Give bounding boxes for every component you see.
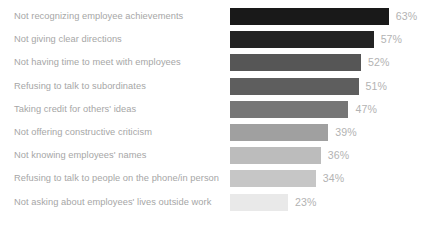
bar-track <box>230 147 321 164</box>
bar-category-label: Refusing to talk to people on the phone/… <box>14 167 219 190</box>
bar-row: Not knowing employees' names36% <box>0 144 436 167</box>
bar <box>230 78 359 95</box>
bar <box>230 194 288 211</box>
bar-category-label: Refusing to talk to subordinates <box>14 75 146 98</box>
bar-category-label: Not recognizing employee achievements <box>14 5 183 28</box>
bar-value-label: 34% <box>323 167 345 190</box>
bar-row: Not asking about employees' lives outsid… <box>0 191 436 214</box>
bar-track <box>230 194 288 211</box>
bar-row: Refusing to talk to people on the phone/… <box>0 167 436 190</box>
bar-track <box>230 124 328 141</box>
bar <box>230 124 328 141</box>
horizontal-bar-chart: Not recognizing employee achievements63%… <box>0 0 436 229</box>
bar <box>230 170 316 187</box>
bar-value-label: 36% <box>328 144 350 167</box>
bar-value-label: 63% <box>396 5 418 28</box>
bar-track <box>230 8 389 25</box>
bar-track <box>230 101 348 118</box>
bar-value-label: 52% <box>368 51 390 74</box>
bar-value-label: 51% <box>366 75 388 98</box>
bar <box>230 54 361 71</box>
bar <box>230 101 348 118</box>
bar <box>230 31 374 48</box>
bar-value-label: 57% <box>381 28 403 51</box>
bar-value-label: 47% <box>355 98 377 121</box>
bar-row: Not recognizing employee achievements63% <box>0 5 436 28</box>
bar-track <box>230 170 316 187</box>
bar <box>230 147 321 164</box>
bar-value-label: 39% <box>335 121 357 144</box>
bar-category-label: Not asking about employees' lives outsid… <box>14 191 211 214</box>
bar-row: Not offering constructive criticism39% <box>0 121 436 144</box>
bar-row: Refusing to talk to subordinates51% <box>0 75 436 98</box>
bar-track <box>230 54 361 71</box>
bar-track <box>230 78 359 95</box>
bar-row: Not having time to meet with employees52… <box>0 51 436 74</box>
bar-category-label: Not giving clear directions <box>14 28 122 51</box>
bar-row: Taking credit for others' ideas47% <box>0 98 436 121</box>
bar-row: Not giving clear directions57% <box>0 28 436 51</box>
bar-track <box>230 31 374 48</box>
bar <box>230 8 389 25</box>
bar-value-label: 23% <box>295 191 317 214</box>
bar-category-label: Not knowing employees' names <box>14 144 146 167</box>
bar-category-label: Not having time to meet with employees <box>14 51 181 74</box>
bar-category-label: Taking credit for others' ideas <box>14 98 136 121</box>
bar-category-label: Not offering constructive criticism <box>14 121 152 144</box>
